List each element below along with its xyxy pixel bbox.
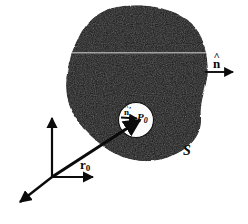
inner-normal-label: ^ n ′ <box>124 106 132 117</box>
position-vector-subscript: 0 <box>86 163 91 173</box>
point-p0-label: P0 <box>137 112 148 125</box>
inner-normal-arrow <box>121 118 137 119</box>
solid-region <box>60 0 220 170</box>
outward-normal-label: ^ n <box>213 57 220 70</box>
prime-mark: ′ <box>129 105 132 115</box>
point-p0-subscript: 0 <box>144 116 148 125</box>
hat-accent-outward: ^ <box>213 51 219 62</box>
point-p0-base: P <box>137 111 144 123</box>
figure-container: ^ n ^ n ′ P0 S r0 <box>0 0 248 224</box>
hat-accent-inner: ^ <box>124 104 128 112</box>
position-vector-label: r0 <box>80 158 90 173</box>
axis-oblique <box>20 177 52 202</box>
surface-label: S <box>183 144 191 158</box>
